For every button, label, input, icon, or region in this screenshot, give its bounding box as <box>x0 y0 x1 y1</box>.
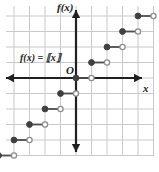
y-axis-label: f(x) <box>57 2 74 13</box>
closed-endpoint-dot <box>89 60 95 66</box>
open-endpoint-dot <box>135 29 140 34</box>
figure-background <box>0 0 159 172</box>
closed-endpoint-dot <box>42 106 48 112</box>
open-endpoint-dot <box>73 91 78 96</box>
open-endpoint-dot <box>42 122 47 127</box>
closed-endpoint-dot <box>27 122 33 128</box>
x-axis-label: x <box>143 83 149 94</box>
coordinate-plane-svg <box>0 0 159 172</box>
closed-endpoint-dot <box>104 44 110 50</box>
open-endpoint-dot <box>89 75 94 80</box>
open-endpoint-dot <box>104 60 109 65</box>
origin-label: O <box>66 65 74 76</box>
closed-endpoint-dot <box>120 29 126 35</box>
open-endpoint-dot <box>27 137 32 142</box>
open-endpoint-dot <box>120 44 125 49</box>
closed-endpoint-dot <box>135 13 141 19</box>
closed-endpoint-dot <box>58 91 64 97</box>
open-endpoint-dot <box>11 153 16 158</box>
graph-figure: f(x) x O f(x) = ⟦x⟧ <box>0 0 159 172</box>
open-endpoint-dot <box>151 13 156 18</box>
closed-endpoint-dot <box>0 153 1 159</box>
closed-endpoint-dot <box>11 137 17 143</box>
function-equation-label: f(x) = ⟦x⟧ <box>20 53 61 63</box>
open-endpoint-dot <box>58 106 63 111</box>
